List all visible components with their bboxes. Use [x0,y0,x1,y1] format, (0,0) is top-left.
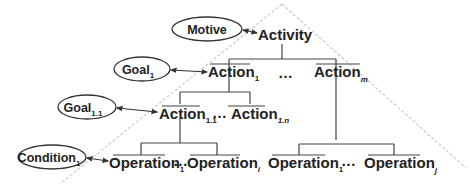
operation-ellipsis-1: … [173,152,188,169]
actionm-node: Actionm [314,63,368,84]
link-arrows [87,30,257,161]
activity-node: Activity [258,26,313,43]
action1n-node: Action1.n [231,105,289,125]
goal11-action11-arrow [117,108,157,112]
operationi-node: Operationi [187,154,261,174]
goal1-label: Goal [122,63,150,77]
goal1-action1-arrow [171,70,207,72]
operation-ellipsis-2: … [341,152,356,169]
operation1-right-node: Operation1 [268,154,344,174]
motive-label: Motive [187,23,227,37]
condition1-ellipse: Condition1 [18,145,86,169]
condition1-label: Condition [18,151,76,165]
goal1-ellipse: Goal1 [114,57,170,81]
action11-node: Action1.1 [159,105,217,125]
activity-hierarchy-diagram: Motive Goal1 Goal1.1 Condition1 Activity… [0,0,474,184]
motive-ellipse: Motive [172,17,242,41]
action-ellipsis-1: … [278,64,293,81]
goal11-label: Goal [64,101,92,115]
action-ellipsis-2: … [212,104,227,121]
goal11-ellipse: Goal1.1 [58,95,116,119]
operationj-node: Operationj [364,154,438,175]
action1-node: Action1 [208,63,260,83]
